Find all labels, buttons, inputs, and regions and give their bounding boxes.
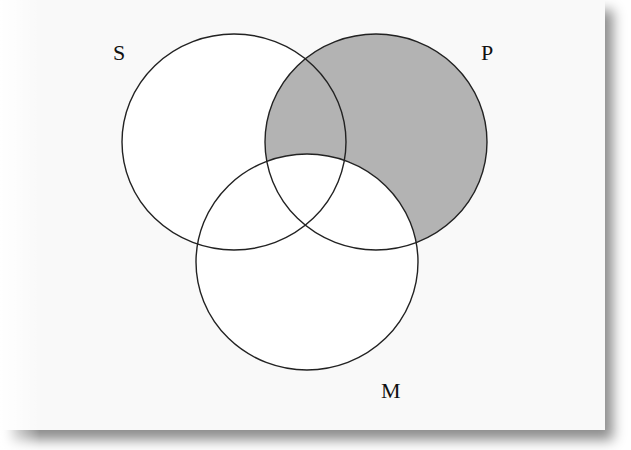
set-p-label: P [481,40,493,65]
set-m-label: M [381,378,401,403]
set-s-label: S [113,40,125,65]
set-m-fill [196,154,418,370]
venn-diagram: S P M [0,0,631,450]
figure-stage: S P M [0,0,631,450]
